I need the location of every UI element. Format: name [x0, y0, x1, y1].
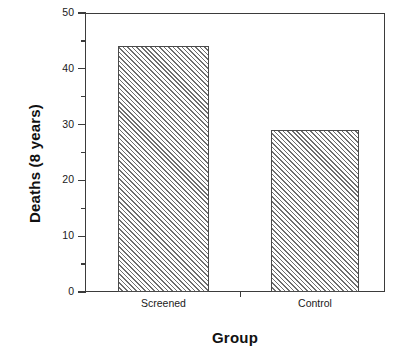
- bar-screened: [118, 46, 209, 292]
- y-axis-tick-label: 30: [40, 118, 74, 130]
- y-axis-tick-minor: [81, 96, 86, 97]
- y-axis-tick-label: 0: [40, 285, 74, 297]
- y-axis-tick-label: 50: [40, 6, 74, 18]
- y-axis-tick-major: [78, 12, 86, 13]
- y-axis-tick-label: 10: [40, 229, 74, 241]
- x-axis-title: Group: [85, 329, 385, 346]
- y-axis-tick-major: [78, 236, 86, 237]
- x-axis-tick-label: Control: [255, 297, 375, 309]
- y-axis-tick-minor: [81, 263, 86, 264]
- y-axis-tick-major: [78, 124, 86, 125]
- y-axis-tick-major: [78, 180, 86, 181]
- y-axis-tick-major: [78, 68, 86, 69]
- x-axis-tick-label: Screened: [104, 297, 224, 309]
- y-axis-tick-minor: [81, 40, 86, 41]
- y-axis-tick-minor: [81, 208, 86, 209]
- y-axis-tick-label: 20: [40, 173, 74, 185]
- y-axis-tick-minor: [81, 152, 86, 153]
- bar-chart: Deaths (8 years) 01020304050 ScreenedCon…: [0, 0, 404, 361]
- y-axis-tick-major: [78, 291, 86, 292]
- bar-control: [271, 130, 359, 292]
- x-axis-tick: [240, 292, 241, 297]
- y-axis-tick-label: 40: [40, 62, 74, 74]
